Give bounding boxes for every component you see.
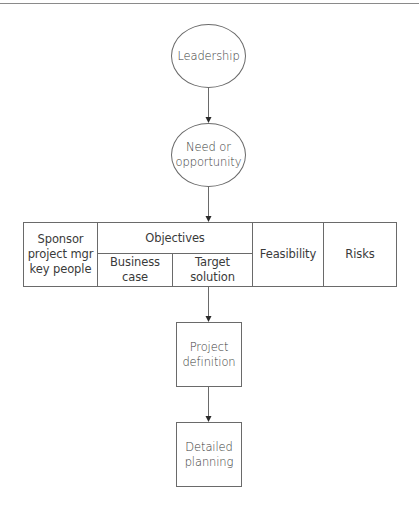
leadership-node: Leadership <box>171 24 246 88</box>
target-solution-cell: Target solution <box>173 254 252 286</box>
need-or-opportunity-label: Need or opportunity <box>176 140 242 170</box>
feasibility-label: Feasibility <box>260 247 316 262</box>
objectives-label: Objectives <box>145 231 205 246</box>
leadership-label: Leadership <box>177 49 239 64</box>
detailed-planning-node: Detailed planning <box>176 422 242 487</box>
target-solution-label: Target solution <box>173 255 252 285</box>
project-definition-node: Project definition <box>176 322 242 387</box>
need-or-opportunity-node: Need or opportunity <box>171 123 246 187</box>
risks-label: Risks <box>345 247 374 262</box>
top-rule-divider <box>0 3 419 4</box>
project-definition-label: Project definition <box>182 340 235 370</box>
risks-cell: Risks <box>324 223 396 286</box>
sponsor-label: Sponsor project mgr key people <box>28 232 94 277</box>
feasibility-cell: Feasibility <box>253 223 323 286</box>
objectives-cell: Objectives <box>98 223 252 254</box>
planning-components-row: Sponsor project mgr key people Objective… <box>23 222 397 287</box>
business-case-cell: Business case <box>98 254 172 286</box>
detailed-planning-label: Detailed planning <box>185 440 234 470</box>
sponsor-cell: Sponsor project mgr key people <box>24 223 97 286</box>
business-case-label: Business case <box>98 255 172 285</box>
